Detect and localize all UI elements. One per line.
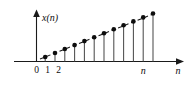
y-axis-arrow-icon <box>33 10 40 18</box>
stem-plot-canvas: x(n) 0 1 2 n n <box>0 0 189 86</box>
sample-dot <box>141 15 146 20</box>
sample-dot <box>43 55 48 60</box>
x-tick-label-n: n <box>141 65 146 76</box>
sample-dot <box>112 27 117 32</box>
stem-plot-figure: x(n) 0 1 2 n n <box>0 0 189 86</box>
sample-dot <box>151 11 156 16</box>
sample-dot <box>121 23 126 28</box>
x-tick-label-2: 2 <box>56 65 61 75</box>
sample-dot <box>53 51 58 56</box>
sample-dot <box>82 39 87 44</box>
x-axis-arrow-icon <box>176 58 184 65</box>
y-axis-label: x(n) <box>41 12 59 24</box>
sample-dot <box>72 43 77 48</box>
x-axis-label: n <box>176 65 181 76</box>
stem-group <box>45 14 153 62</box>
x-tick-label-1: 1 <box>45 65 50 75</box>
sample-dot <box>131 19 136 24</box>
sample-dot <box>102 31 107 36</box>
sample-dot <box>92 35 97 40</box>
sample-dot <box>63 47 68 52</box>
x-tick-label-0: 0 <box>34 65 39 75</box>
